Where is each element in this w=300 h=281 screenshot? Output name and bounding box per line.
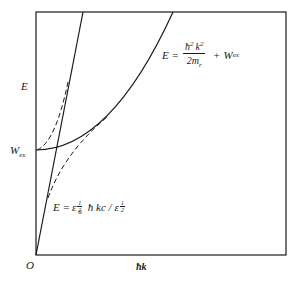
- exp-num: 1: [120, 200, 125, 207]
- parabola-tail: W: [224, 49, 233, 61]
- parabola-lhs: E =: [162, 49, 179, 61]
- y-axis-label: E: [21, 81, 28, 92]
- photon-lhs: E =: [53, 201, 70, 213]
- exp: 2: [200, 40, 204, 48]
- lower-polariton-branch: [48, 117, 107, 198]
- parabola-denominator: 2mr: [187, 54, 202, 69]
- r-sub: r: [199, 61, 202, 69]
- exp: 2: [190, 40, 194, 48]
- photon-line: [36, 12, 83, 255]
- x-axis-label: ħk: [136, 262, 147, 272]
- wex-marker-label: Wex: [10, 145, 25, 159]
- wex-base: W: [10, 144, 19, 156]
- photon-middle: ħ kc /: [88, 201, 112, 213]
- origin-label: O: [26, 260, 34, 271]
- epsilon-sub-zero: 0: [78, 208, 82, 216]
- half-exponent-2: 1 2: [120, 200, 125, 213]
- wex-sub: ex: [19, 151, 25, 159]
- dispersion-diagram: [0, 0, 300, 281]
- plot-frame: [36, 12, 286, 255]
- exp-num: 1: [77, 200, 82, 207]
- exp-den: 2: [121, 207, 124, 213]
- epsilon: ε: [115, 201, 119, 213]
- parabola-numerator: ħ2 k2: [183, 40, 205, 54]
- epsilon-0: ε: [72, 201, 76, 213]
- parabola-fraction: ħ2 k2 2mr: [183, 40, 205, 69]
- two-m: 2m: [187, 55, 199, 66]
- plus-sign: +: [213, 49, 219, 61]
- photon-equation: E = ε 1 2 0 ħ kc / ε 1 2: [53, 200, 126, 213]
- parabola-tail-sub: ex: [233, 51, 239, 59]
- parabola-equation: E = ħ2 k2 2mr + Wex: [162, 40, 239, 69]
- exciton-parabola: [36, 12, 173, 150]
